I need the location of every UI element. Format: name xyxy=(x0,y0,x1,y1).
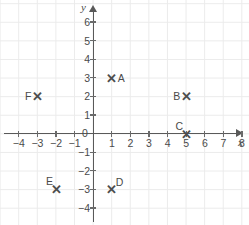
y-tick-label: 3 xyxy=(78,73,90,84)
y-tick-label: −3 xyxy=(78,184,90,195)
y-tick xyxy=(90,96,96,97)
x-tick-label: 3 xyxy=(146,138,152,149)
x-tick-label: 6 xyxy=(202,138,208,149)
x-tick-label: 2 xyxy=(127,138,133,149)
y-tick xyxy=(90,40,96,41)
y-tick-label: 4 xyxy=(78,54,90,65)
y-tick xyxy=(90,77,96,78)
point-label: E xyxy=(46,176,53,187)
y-tick xyxy=(90,114,96,115)
x-tick xyxy=(111,131,112,137)
y-tick-label: 5 xyxy=(78,35,90,46)
y-tick-label: 2 xyxy=(78,91,90,102)
x-tick-label: −2 xyxy=(50,138,62,149)
point-label: C xyxy=(176,121,184,132)
x-tick-label: −4 xyxy=(13,138,25,149)
y-tick xyxy=(90,189,96,190)
x-tick xyxy=(148,131,149,137)
x-tick xyxy=(223,131,224,137)
x-tick xyxy=(167,131,168,137)
x-tick xyxy=(18,131,19,137)
point-label: B xyxy=(173,91,180,102)
y-tick xyxy=(90,59,96,60)
point-marker-x-icon: ✕ xyxy=(32,90,43,103)
y-tick-label: −1 xyxy=(78,147,90,158)
y-tick-label: −4 xyxy=(78,203,90,214)
x-tick xyxy=(55,131,56,137)
x-tick xyxy=(37,131,38,137)
y-tick xyxy=(90,170,96,171)
y-axis-arrow-icon xyxy=(89,5,97,12)
coordinate-plane-chart: x y 0 −4−3−2−112345678 654321−1−2−3−4 ✕A… xyxy=(0,0,249,225)
x-tick xyxy=(241,131,242,137)
y-tick xyxy=(90,207,96,208)
grid-lines xyxy=(0,0,249,225)
y-tick xyxy=(90,21,96,22)
x-tick xyxy=(204,131,205,137)
origin-label: 0 xyxy=(82,128,88,139)
y-tick-label: 6 xyxy=(78,17,90,28)
point-label: A xyxy=(118,73,125,84)
x-tick-label: 7 xyxy=(220,138,226,149)
y-axis-line xyxy=(93,11,94,222)
x-tick-label: 8 xyxy=(239,138,245,149)
y-tick-label: 1 xyxy=(78,110,90,121)
point-marker-x-icon: ✕ xyxy=(181,90,192,103)
point-label: D xyxy=(116,177,124,188)
y-axis-label: y xyxy=(81,2,86,13)
x-tick-label: 4 xyxy=(165,138,171,149)
x-tick-label: 1 xyxy=(109,138,115,149)
x-tick xyxy=(74,131,75,137)
y-tick-label: −2 xyxy=(78,166,90,177)
x-tick xyxy=(130,131,131,137)
y-tick xyxy=(90,152,96,153)
x-tick-label: −3 xyxy=(31,138,43,149)
point-label: F xyxy=(25,91,31,102)
point-marker-x-icon: ✕ xyxy=(106,71,117,84)
x-axis-line xyxy=(4,133,238,134)
